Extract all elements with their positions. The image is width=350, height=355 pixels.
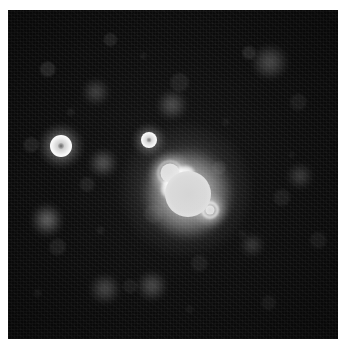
companion-nw-rim bbox=[158, 161, 183, 186]
knot-se-rim bbox=[202, 202, 219, 219]
knot-se-glow bbox=[194, 194, 226, 226]
main-complex-halo bbox=[120, 124, 252, 256]
primary-lobe-rim bbox=[160, 166, 216, 222]
companion-nw-glow bbox=[150, 153, 190, 193]
knot-se-core bbox=[206, 206, 215, 215]
primary-lobe-core bbox=[165, 171, 211, 217]
sky-field bbox=[8, 10, 338, 339]
astronomical-image-figure bbox=[0, 0, 350, 355]
primary-lobe-glow bbox=[145, 151, 231, 237]
main-complex-bridge bbox=[155, 160, 201, 205]
source-main-complex bbox=[8, 10, 338, 339]
companion-nw-core bbox=[161, 164, 180, 183]
